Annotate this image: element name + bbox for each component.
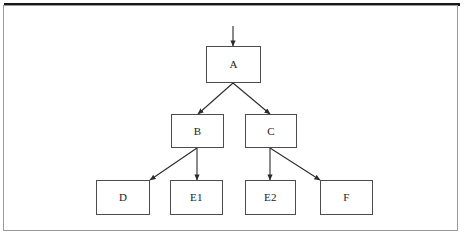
figure-page: A B C D E1 E2 F xyxy=(0,0,468,240)
edge-c-to-f xyxy=(270,148,320,180)
node-label-e1: E1 xyxy=(190,192,203,203)
diagram-connectors xyxy=(0,0,468,240)
node-label-f: F xyxy=(343,192,349,203)
edge-b-to-d xyxy=(150,148,197,180)
node-box-c[interactable]: C xyxy=(245,114,297,148)
edge-a-to-c xyxy=(233,83,270,114)
edge-a-to-b xyxy=(198,83,233,114)
node-label-c: C xyxy=(267,126,275,137)
node-label-e2: E2 xyxy=(264,192,277,203)
node-box-b[interactable]: B xyxy=(171,114,224,148)
node-label-b: B xyxy=(194,126,202,137)
node-box-e1[interactable]: E1 xyxy=(170,180,223,215)
node-box-e2[interactable]: E2 xyxy=(245,180,296,215)
node-label-a: A xyxy=(229,59,237,70)
node-box-f[interactable]: F xyxy=(320,180,373,215)
node-box-a[interactable]: A xyxy=(206,46,261,83)
node-label-d: D xyxy=(119,192,127,203)
node-box-d[interactable]: D xyxy=(96,180,150,215)
